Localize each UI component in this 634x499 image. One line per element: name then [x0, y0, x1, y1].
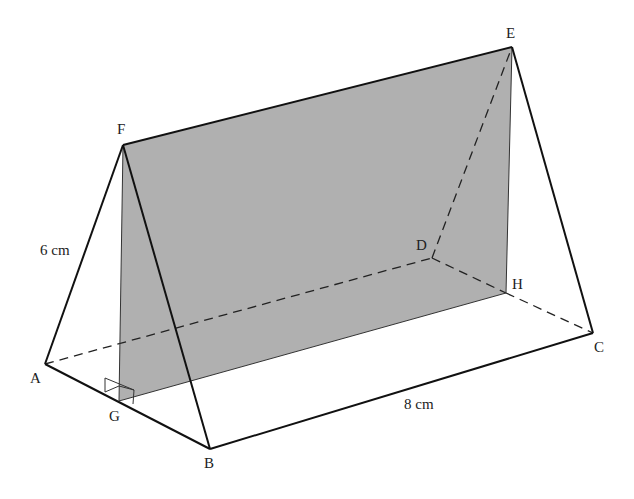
vertex-label-a: A — [30, 370, 41, 386]
vertex-label-b: B — [204, 455, 214, 471]
vertex-label-h: H — [512, 276, 523, 292]
dimension-label-bc: 8 cm — [404, 396, 434, 412]
vertex-label-d: D — [416, 237, 427, 253]
vertex-label-g: G — [109, 408, 120, 424]
dimension-label-af: 6 cm — [40, 242, 70, 258]
vertex-label-f: F — [117, 121, 125, 137]
shaded-plane-fehg — [119, 47, 512, 401]
vertex-label-c: C — [594, 339, 604, 355]
vertex-label-e: E — [506, 25, 515, 41]
edge-hc-hidden — [506, 293, 593, 333]
prism-diagram: A B C D E F G H 6 cm 8 cm — [0, 0, 634, 499]
edge-ec — [512, 47, 593, 333]
